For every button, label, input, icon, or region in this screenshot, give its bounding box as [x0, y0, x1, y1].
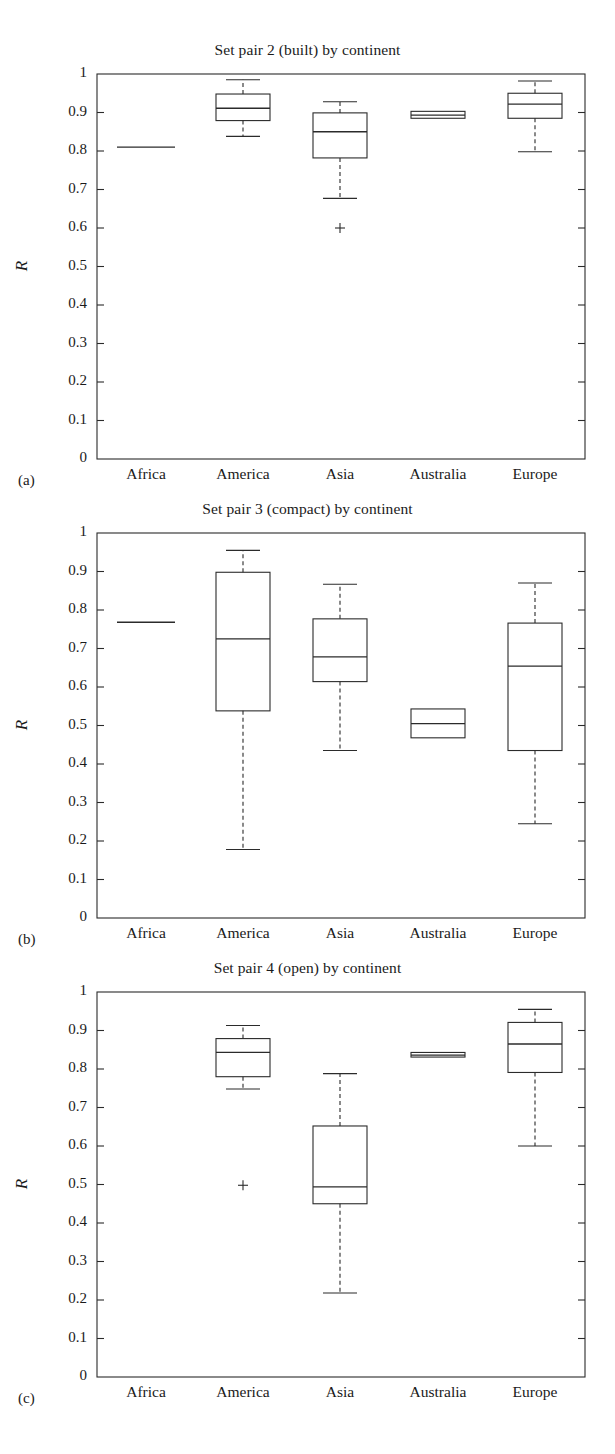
y-tick-label: 0.4	[35, 295, 87, 312]
y-tick-label: 0.6	[35, 1136, 87, 1153]
y-tick-label: 0.8	[35, 141, 87, 158]
plot-area	[0, 0, 615, 1454]
y-tick-label: 0.5	[35, 257, 87, 274]
y-tick-label: 0	[35, 908, 87, 925]
y-tick-label: 0.3	[35, 793, 87, 810]
y-tick-label: 0.1	[35, 1329, 87, 1346]
y-tick-label: 0.1	[35, 411, 87, 428]
y-axis-title: R	[12, 714, 32, 736]
box-asia	[313, 584, 367, 750]
y-axis-title: R	[12, 255, 32, 277]
box-america	[216, 80, 270, 137]
y-tick-label: 0.4	[35, 1213, 87, 1230]
y-tick-label: 0.5	[35, 1175, 87, 1192]
box-asia	[313, 102, 367, 233]
box-europe	[508, 81, 562, 152]
y-tick-label: 1	[35, 523, 87, 540]
y-tick-label: 0.2	[35, 831, 87, 848]
x-tick-label-europe: Europe	[465, 924, 605, 942]
y-tick-label: 0.8	[35, 1059, 87, 1076]
y-tick-label: 0.9	[35, 1021, 87, 1038]
box-europe	[508, 583, 562, 824]
y-axis-title: R	[12, 1173, 32, 1195]
chart-title: Set pair 2 (built) by continent	[0, 41, 615, 59]
y-tick-label: 0.2	[35, 1290, 87, 1307]
y-tick-label: 1	[35, 64, 87, 81]
box-australia	[411, 111, 465, 118]
plot-area	[0, 0, 615, 1454]
box-australia	[411, 1052, 465, 1057]
y-tick-label: 0.4	[35, 754, 87, 771]
box-america	[216, 550, 270, 849]
y-tick-label: 0.3	[35, 1252, 87, 1269]
y-tick-label: 0.9	[35, 103, 87, 120]
y-tick-label: 0.7	[35, 639, 87, 656]
y-tick-label: 1	[35, 982, 87, 999]
panel-letter: (c)	[18, 1390, 35, 1407]
plot-area	[0, 0, 615, 1454]
box-europe	[508, 1009, 562, 1146]
y-tick-label: 0.7	[35, 180, 87, 197]
box-asia	[313, 1074, 367, 1293]
chart-title: Set pair 3 (compact) by continent	[0, 500, 615, 518]
y-tick-label: 0.3	[35, 334, 87, 351]
y-tick-label: 0	[35, 449, 87, 466]
box-australia	[411, 709, 465, 738]
x-tick-label-europe: Europe	[465, 1383, 605, 1401]
panel-letter: (a)	[18, 472, 35, 489]
y-tick-label: 0.9	[35, 562, 87, 579]
x-tick-label-europe: Europe	[465, 465, 605, 483]
box-america	[216, 1025, 270, 1190]
y-tick-label: 0.5	[35, 716, 87, 733]
y-tick-label: 0.7	[35, 1098, 87, 1115]
y-tick-label: 0.6	[35, 218, 87, 235]
y-tick-label: 0.2	[35, 372, 87, 389]
y-tick-label: 0	[35, 1367, 87, 1384]
chart-title: Set pair 4 (open) by continent	[0, 959, 615, 977]
y-tick-label: 0.8	[35, 600, 87, 617]
y-tick-label: 0.6	[35, 677, 87, 694]
y-tick-label: 0.1	[35, 870, 87, 887]
panel-letter: (b)	[18, 931, 36, 948]
